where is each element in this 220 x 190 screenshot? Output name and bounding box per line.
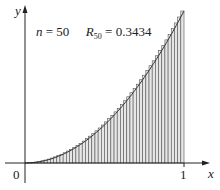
y-axis-label: y — [15, 4, 21, 17]
x-tick-label-1: 1 — [180, 168, 187, 181]
rectangle — [149, 66, 152, 163]
rectangle — [105, 122, 108, 163]
rectangle — [101, 125, 104, 163]
annotation: n = 50 R50 = 0.3434 — [36, 25, 151, 41]
rectangle — [73, 147, 76, 163]
rectangle — [155, 56, 158, 163]
rectangle — [95, 131, 98, 163]
rectangle — [98, 128, 101, 163]
n-value: = 50 — [46, 24, 70, 39]
rectangle — [146, 71, 149, 163]
x-tick-label-0: 0 — [13, 168, 20, 181]
rectangle — [85, 139, 88, 163]
rectangle — [171, 29, 174, 163]
rectangle — [159, 51, 162, 163]
rectangle — [76, 145, 79, 163]
rectangle — [174, 23, 177, 163]
rectangle — [89, 136, 92, 163]
rectangle — [130, 93, 133, 163]
rectangle — [152, 61, 155, 163]
rectangle — [108, 119, 111, 163]
rectangle — [178, 17, 181, 163]
r-subscript: 50 — [94, 32, 102, 41]
rectangle — [143, 75, 146, 163]
rectangle — [165, 40, 168, 163]
rectangle — [82, 141, 85, 163]
rectangle — [79, 143, 82, 163]
rectangle — [120, 105, 123, 163]
rectangle — [124, 101, 127, 163]
rectangle — [117, 108, 120, 163]
r-value: = 0.3434 — [105, 24, 151, 39]
rectangle — [162, 45, 165, 163]
rectangle — [139, 80, 142, 163]
rectangle — [136, 84, 139, 163]
y-axis-arrow-icon — [23, 5, 28, 13]
n-symbol: n — [36, 24, 43, 39]
rectangle — [127, 97, 130, 163]
r-symbol: R — [86, 24, 94, 39]
rectangle — [92, 134, 95, 163]
rectangle — [181, 11, 184, 163]
rectangle — [168, 34, 171, 163]
rectangle — [133, 89, 136, 163]
x-axis-arrow-icon — [202, 161, 210, 166]
rectangle — [114, 112, 117, 163]
x-axis-label: x — [208, 167, 214, 180]
rectangle — [111, 115, 114, 163]
